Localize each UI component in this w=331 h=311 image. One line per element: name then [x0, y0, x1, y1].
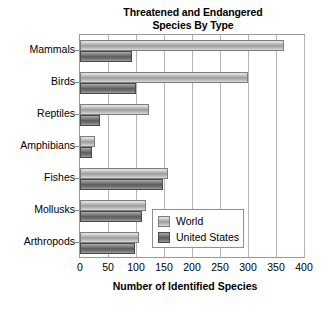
x-axis-title: Number of Identified Species	[60, 280, 310, 292]
x-axis-tick-400: 400	[284, 261, 324, 273]
legend-item-united-states: United States	[158, 230, 239, 244]
bar-reptiles-world	[80, 104, 149, 115]
bar-amphibians-united-states	[80, 147, 92, 158]
bar-fishes-united-states	[80, 179, 163, 190]
y-axis-tick	[75, 50, 79, 51]
bar-chart: Threatened and Endangered Species By Typ…	[0, 0, 331, 311]
legend-swatch-united-states-icon	[158, 232, 170, 243]
y-axis-tick	[75, 82, 79, 83]
y-axis-tick	[75, 242, 79, 243]
y-axis-label-mammals: Mammals	[29, 44, 75, 55]
chart-title-line-1: Threatened and Endangered	[80, 6, 306, 19]
bar-reptiles-united-states	[80, 115, 100, 126]
legend-item-world: World	[158, 214, 203, 228]
bar-arthropods-united-states	[80, 243, 135, 254]
y-axis-label-mollusks: Mollusks	[34, 204, 75, 215]
bar-amphibians-world	[80, 136, 95, 147]
y-axis-label-amphibians: Amphibians	[20, 140, 75, 151]
gridline	[248, 35, 249, 257]
bar-fishes-world	[80, 168, 168, 179]
y-axis-tick	[75, 178, 79, 179]
bar-mammals-united-states	[80, 51, 132, 62]
chart-title: Threatened and Endangered Species By Typ…	[80, 6, 306, 31]
bar-mammals-world	[80, 40, 284, 51]
y-axis-tick	[75, 210, 79, 211]
y-axis-label-reptiles: Reptiles	[37, 108, 75, 119]
chart-legend: World United States	[152, 209, 244, 248]
gridline	[304, 35, 305, 257]
y-axis-label-fishes: Fishes	[44, 172, 75, 183]
legend-swatch-world-icon	[158, 216, 170, 227]
legend-label-world: World	[176, 215, 203, 227]
y-axis-tick	[75, 114, 79, 115]
y-axis-tick	[75, 146, 79, 147]
bar-mollusks-world	[80, 200, 146, 211]
bar-arthropods-world	[80, 232, 139, 243]
gridline	[276, 35, 277, 257]
bar-birds-world	[80, 72, 248, 83]
gridline	[108, 35, 109, 257]
bar-mollusks-united-states	[80, 211, 142, 222]
y-axis-label-arthropods: Arthropods	[24, 236, 75, 247]
bar-birds-united-states	[80, 83, 136, 94]
y-axis-label-birds: Birds	[51, 76, 75, 87]
legend-label-united-states: United States	[176, 231, 239, 243]
gridline	[136, 35, 137, 257]
chart-title-line-2: Species By Type	[80, 19, 306, 32]
